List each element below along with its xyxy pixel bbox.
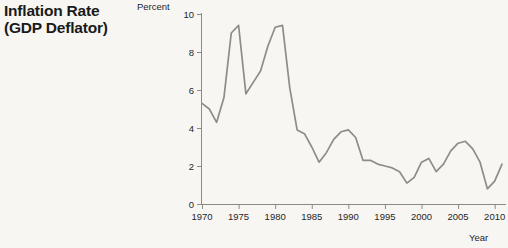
x-tick-label: 2010: [484, 211, 505, 222]
y-tick-label: 10: [183, 9, 194, 20]
y-tick-label: 6: [189, 85, 194, 96]
y-tick-label: 4: [189, 123, 194, 134]
x-tick-label: 2005: [448, 211, 469, 222]
x-tick-label: 1990: [338, 211, 359, 222]
y-tick-label: 2: [189, 161, 194, 172]
y-axis-group: 0246810: [183, 9, 202, 210]
inflation-rate-chart-figure: Inflation Rate (GDP Deflator) Percent Ye…: [0, 0, 508, 248]
x-tick-label: 2000: [411, 211, 432, 222]
y-tick-group: 0246810: [183, 9, 202, 210]
x-tick-label: 1980: [265, 211, 286, 222]
plot-area: 0246810 19701975198019851990199520002005…: [0, 0, 508, 248]
y-tick-label: 8: [189, 47, 194, 58]
x-axis-group: 197019751980198519901995200020052010: [191, 204, 506, 222]
inflation-rate-line: [202, 25, 502, 188]
x-tick-label: 1970: [191, 211, 212, 222]
x-tick-group: 197019751980198519901995200020052010: [191, 204, 505, 222]
x-tick-label: 1995: [374, 211, 395, 222]
y-tick-label: 0: [189, 199, 194, 210]
x-tick-label: 1975: [228, 211, 249, 222]
x-tick-label: 1985: [301, 211, 322, 222]
